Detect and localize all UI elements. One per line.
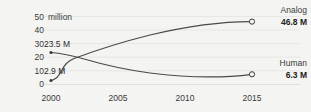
human-series-label: Human [259,59,307,68]
y-tick-30: 30 [22,40,44,49]
y-tick-0: 0 [22,80,44,89]
analog-series-label: Analog [259,6,307,15]
y-tick-40: 40 [22,26,44,35]
x-tick-2005: 2005 [98,94,138,103]
human-end-value-label: 6.3 M [259,71,307,80]
y-tick-10: 10 [22,67,44,76]
series-analog-start-marker [49,79,52,82]
x-tick-2000: 2000 [31,94,71,103]
y-axis-unit-label: million [48,13,72,22]
x-tick-2015: 2015 [232,94,272,103]
analog-end-value-label: 46.8 M [259,18,307,27]
human-start-value-label: 23.5 M [44,40,70,49]
series-human-end-marker [249,72,254,77]
line-chart: 50 million 40 30 20 10 0 2000 2005 2010 … [0,0,311,112]
series-analog-end-marker [249,19,254,24]
analog-start-value-label: 2.9 M [44,67,65,76]
y-tick-20: 20 [22,53,44,62]
y-tick-50: 50 [22,13,44,22]
x-tick-2010: 2010 [165,94,205,103]
series-human-start-marker [49,51,52,54]
